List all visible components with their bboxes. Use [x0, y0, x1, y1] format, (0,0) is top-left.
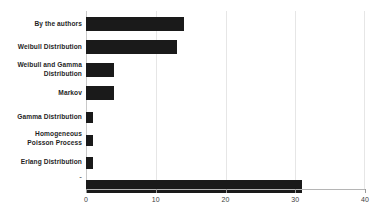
bar-by-the-authors — [86, 17, 184, 31]
category-label-markov: Markov — [0, 89, 82, 98]
x-tick-label-20: 20 — [221, 196, 229, 203]
x-tick-label-0: 0 — [84, 196, 88, 203]
category-label-unlabeled: - — [0, 172, 82, 183]
category-label-homogeneous-poisson-process: Homogeneous Poisson Process — [0, 130, 82, 147]
bar-row — [86, 63, 365, 77]
x-tick-mark-0 — [86, 189, 87, 193]
bar-row — [86, 40, 365, 54]
category-label-gamma-distribution: Gamma Distribution — [0, 113, 82, 122]
bar-homogeneous-poisson-process — [86, 135, 93, 146]
bar-gamma-distribution — [86, 112, 93, 123]
bar-row — [86, 135, 365, 146]
bar-row — [86, 17, 365, 31]
x-tick-mark-40 — [365, 189, 366, 193]
bar-chart: 0 10 20 30 40 By the authors Weibull Dis… — [0, 0, 383, 216]
bar-markov — [86, 86, 114, 100]
bar-row — [86, 157, 365, 169]
x-tick-label-10: 10 — [152, 196, 160, 203]
x-tick-label-30: 30 — [291, 196, 299, 203]
bar-weibull-and-gamma-distribution — [86, 63, 114, 77]
bar-unlabeled — [86, 180, 302, 193]
plot-area — [86, 11, 365, 189]
bar-row — [86, 112, 365, 123]
category-label-by-the-authors: By the authors — [0, 20, 82, 29]
x-tick-mark-30 — [295, 189, 296, 193]
bar-row — [86, 86, 365, 100]
bar-weibull-distribution — [86, 40, 177, 54]
bar-erlang-distribution — [86, 157, 93, 169]
category-label-weibull-and-gamma-distribution: Weibull and Gamma Distribution — [0, 61, 82, 78]
x-tick-mark-20 — [226, 189, 227, 193]
x-tick-mark-10 — [156, 189, 157, 193]
category-label-erlang-distribution: Erlang Distribution — [0, 158, 82, 167]
x-tick-label-40: 40 — [361, 196, 369, 203]
category-label-weibull-distribution: Weibull Distribution — [0, 43, 82, 52]
